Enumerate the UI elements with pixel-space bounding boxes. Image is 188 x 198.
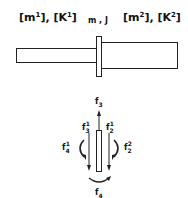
right-beam-segment — [102, 43, 178, 69]
force-label-f2-1: f21 — [106, 121, 114, 134]
junction-plate — [97, 37, 102, 77]
beam-diagram — [0, 0, 188, 198]
free-body-element — [97, 131, 102, 172]
moment-arc-bottom-icon — [89, 178, 109, 182]
left-segment-label: [m1], [K1] — [19, 12, 77, 23]
left-beam-segment — [17, 49, 98, 63]
junction-label: m , J — [88, 17, 108, 25]
right-segment-label: [m2], [K2] — [123, 12, 181, 23]
force-label-f2-2: f22 — [124, 141, 132, 154]
force-label-f4-1: f41 — [62, 141, 70, 154]
arrow-up-icon — [97, 110, 101, 116]
force-label-f3: f3 — [95, 98, 103, 108]
force-label-f4: f4 — [95, 189, 103, 198]
arrow-down-icon — [107, 165, 111, 171]
force-label-f3-1: f31 — [82, 121, 90, 134]
arrow-down-icon — [87, 165, 91, 171]
